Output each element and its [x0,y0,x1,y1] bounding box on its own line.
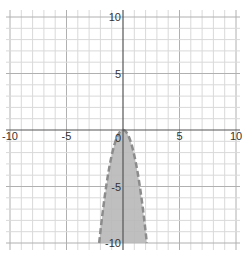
x-tick-label: -5 [62,130,72,142]
y-tick-label: 10 [109,11,121,23]
y-tick-label: -5 [111,181,121,193]
origin-label: 0 [115,132,121,144]
axes [6,10,240,250]
graph-plot: -10-5510105-5-100 [0,0,244,253]
x-tick-label: 5 [176,130,182,142]
x-tick-label: 10 [230,130,242,142]
y-tick-label: 5 [115,68,121,80]
x-tick-label: -10 [2,130,18,142]
y-tick-label: -10 [105,237,121,249]
